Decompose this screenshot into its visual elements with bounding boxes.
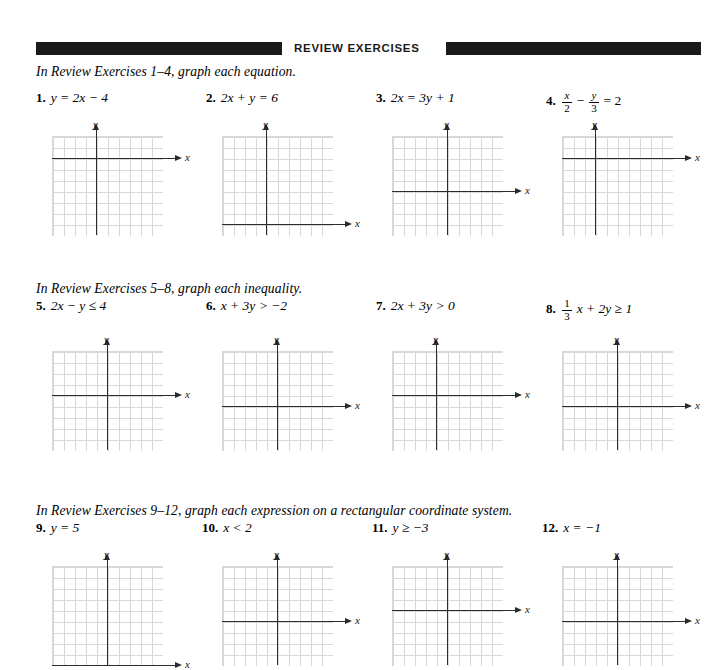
problem-11-equation: y ≥ −3 — [393, 520, 429, 536]
y-axis — [447, 558, 448, 665]
problem-7-number: 7. — [376, 298, 386, 314]
x-axis-label: x — [525, 388, 530, 400]
fraction-y-over-3: y 3 — [589, 90, 599, 114]
equation-tail: x + 2y ≥ 1 — [577, 301, 633, 316]
problem-4: 4. x 2 − y 3 = 2 — [546, 90, 621, 114]
problem-5-equation: 2x − y ≤ 4 — [51, 298, 107, 314]
graph-10[interactable]: xy — [222, 548, 337, 664]
problem-6-equation: x + 3y > −2 — [221, 298, 287, 314]
x-axis-arrow-icon — [175, 392, 182, 398]
problem-8-number: 8. — [546, 301, 556, 317]
problem-2: 2. 2x + y = 6 — [206, 90, 278, 106]
y-axis-label: y — [433, 333, 438, 345]
problem-5-number: 5. — [36, 298, 46, 314]
y-axis — [447, 128, 448, 235]
x-axis — [52, 395, 176, 396]
x-axis — [562, 406, 686, 407]
graph-11[interactable]: xy — [392, 548, 507, 664]
minus-operator: − — [577, 93, 585, 108]
graph-6[interactable]: xy — [222, 333, 337, 449]
x-axis-arrow-icon — [515, 188, 522, 194]
x-axis-arrow-icon — [175, 155, 182, 161]
fraction-denominator: 3 — [589, 102, 599, 115]
header-bar-right — [446, 42, 701, 55]
x-axis-arrow-icon — [345, 221, 352, 227]
x-axis-label: x — [355, 614, 360, 626]
fraction-1-over-3: 1 3 — [562, 298, 572, 322]
x-axis — [392, 610, 516, 611]
fraction-denominator: 3 — [562, 310, 572, 323]
x-axis — [222, 224, 346, 225]
x-axis-arrow-icon — [685, 618, 692, 624]
problem-3: 3. 2x = 3y + 1 — [376, 90, 455, 106]
problem-7-equation: 2x + 3y > 0 — [391, 298, 455, 314]
coordinate-grid — [392, 351, 503, 451]
problem-4-number: 4. — [546, 93, 556, 109]
problem-12-number: 12. — [542, 520, 558, 536]
graph-7[interactable]: xy — [392, 333, 507, 449]
fraction-numerator: 1 — [562, 298, 572, 310]
x-axis — [222, 406, 346, 407]
problem-10-number: 10. — [202, 520, 218, 536]
problem-8: 8. 1 3 x + 2y ≥ 1 — [546, 298, 632, 322]
problem-3-number: 3. — [376, 90, 386, 106]
y-axis-label: y — [274, 548, 279, 560]
x-axis-arrow-icon — [685, 403, 692, 409]
graph-5[interactable]: xy — [52, 333, 167, 449]
graph-4[interactable]: xy — [562, 118, 677, 234]
x-axis-arrow-icon — [345, 403, 352, 409]
y-axis — [595, 128, 596, 235]
problem-3-equation: 2x = 3y + 1 — [391, 90, 455, 106]
x-axis — [392, 395, 516, 396]
y-axis — [107, 558, 108, 665]
y-axis-label: y — [444, 118, 449, 130]
header-bar-left — [36, 42, 282, 55]
problem-5: 5. 2x − y ≤ 4 — [36, 298, 106, 314]
coordinate-grid — [52, 136, 163, 236]
problem-row-2: 5. 2x − y ≤ 4 6. x + 3y > −2 7. 2x + 3y … — [0, 298, 725, 324]
y-axis — [107, 343, 108, 450]
x-axis — [562, 621, 686, 622]
x-axis-arrow-icon — [345, 618, 352, 624]
x-axis-arrow-icon — [685, 155, 692, 161]
problem-9-equation: y = 5 — [51, 520, 80, 536]
problem-10-equation: x < 2 — [223, 520, 252, 536]
y-axis-label: y — [614, 333, 619, 345]
problem-11-number: 11. — [372, 520, 388, 536]
problem-6-number: 6. — [206, 298, 216, 314]
graph-3[interactable]: xy — [392, 118, 507, 234]
problem-11: 11. y ≥ −3 — [372, 520, 429, 536]
x-axis-label: x — [695, 399, 700, 411]
graph-12[interactable]: xy — [562, 548, 677, 664]
problem-row-1: 1. y = 2x − 4 2. 2x + y = 6 3. 2x = 3y +… — [0, 90, 725, 116]
y-axis — [436, 343, 437, 450]
y-axis-label: y — [444, 548, 449, 560]
problem-12-equation: x = −1 — [563, 520, 601, 536]
instruction-line-1: In Review Exercises 1–4, graph each equa… — [36, 64, 296, 80]
instruction-line-3: In Review Exercises 9–12, graph each exp… — [36, 503, 512, 519]
y-axis-label: y — [104, 548, 109, 560]
x-axis-label: x — [185, 388, 190, 400]
x-axis-label: x — [185, 658, 190, 670]
y-axis — [266, 128, 267, 235]
review-exercises-header: REVIEW EXERCISES — [0, 38, 725, 58]
x-axis — [222, 621, 346, 622]
fraction-x-over-2: x 2 — [562, 90, 572, 114]
fraction-denominator: 2 — [562, 102, 572, 115]
x-axis — [392, 191, 516, 192]
x-axis — [562, 158, 686, 159]
y-axis-label: y — [104, 333, 109, 345]
x-axis — [52, 158, 176, 159]
y-axis — [277, 343, 278, 450]
graph-9[interactable]: xy — [52, 548, 167, 664]
y-axis — [617, 343, 618, 450]
x-axis-arrow-icon — [515, 607, 522, 613]
problem-6: 6. x + 3y > −2 — [206, 298, 287, 314]
graph-2[interactable]: xy — [222, 118, 337, 234]
x-axis-arrow-icon — [175, 662, 182, 668]
graph-8[interactable]: xy — [562, 333, 677, 449]
x-axis-label: x — [355, 399, 360, 411]
problem-2-equation: 2x + y = 6 — [221, 90, 278, 106]
fraction-numerator: y — [589, 90, 598, 102]
graph-1[interactable]: xy — [52, 118, 167, 234]
